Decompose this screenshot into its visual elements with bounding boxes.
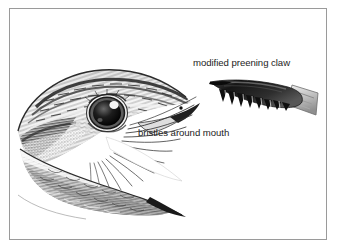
mouth-gape (106, 137, 182, 181)
label-modified-preening-claw: modified preening claw (193, 58, 290, 68)
figure-frame: modified preening claw bristles around m… (9, 8, 327, 240)
label-bristles-around-mouth: bristles around mouth (138, 128, 229, 138)
eye-highlight (109, 101, 118, 109)
caption-sliver (12, 246, 312, 252)
preening-claw-illustration (206, 69, 327, 124)
